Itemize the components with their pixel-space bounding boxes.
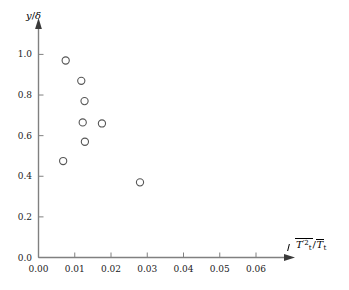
data-point-marker [62, 57, 69, 64]
figure-scatter-plot: y/δ T′2t /Tt 0.000.010.020.030.040.050.0… [0, 0, 349, 290]
data-point-marker [79, 119, 86, 126]
y-tick-label: 0.6 [6, 131, 32, 141]
x-axis-label-denominator-var: T [316, 239, 323, 250]
x-tick-label: 0.03 [137, 264, 157, 274]
y-tick-label: 0.0 [6, 253, 32, 263]
x-axis-label-denominator: T [316, 239, 324, 251]
y-axis-label-delta: δ [35, 10, 41, 21]
data-point-marker [60, 157, 67, 164]
y-tick-label: 1.0 [6, 49, 32, 59]
data-point-marker [81, 98, 88, 105]
y-axis-label: y/δ [26, 10, 41, 21]
x-tick-label: 0.01 [65, 264, 85, 274]
x-tick-label: 0.04 [173, 264, 193, 274]
y-tick-label: 0.2 [6, 212, 32, 222]
x-axis-label: T′2t /Tt [288, 238, 326, 252]
x-axis-label-denominator-sub: t [324, 244, 327, 252]
data-point-marker [81, 138, 88, 145]
x-axis-label-numerator-sub: t [309, 244, 312, 252]
x-tick-label: 0.02 [101, 264, 121, 274]
x-axis-label-numerator-var: T [296, 239, 303, 250]
x-tick-label: 0.05 [210, 264, 230, 274]
y-tick-label: 0.4 [6, 171, 32, 181]
x-tick-label: 0.06 [246, 264, 266, 274]
y-tick-label: 0.8 [6, 90, 32, 100]
x-axis-label-radical: T′2t [288, 238, 313, 252]
x-tick-label: 0.00 [28, 264, 48, 274]
data-point-marker [78, 77, 85, 84]
data-point-marker [98, 120, 105, 127]
data-point-marker [136, 179, 143, 186]
x-axis-arrowhead [284, 254, 295, 261]
